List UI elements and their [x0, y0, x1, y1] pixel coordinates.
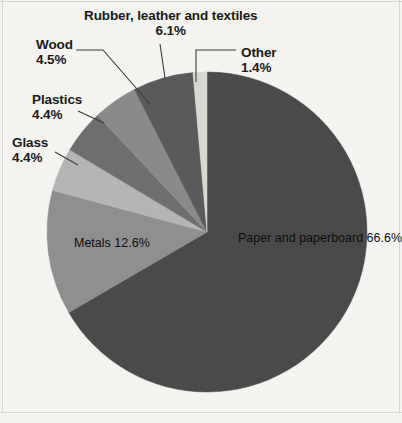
slice-label-plastics-value: 4.4%	[32, 107, 82, 122]
slice-label-metals-name: Metals	[74, 236, 111, 250]
slice-label-wood-value: 4.5%	[36, 52, 73, 67]
slice-label-glass-value: 4.4%	[12, 150, 48, 165]
slice-label-paper-value: 66.6%	[367, 231, 402, 245]
slice-label-plastics: Plastics 4.4%	[32, 92, 82, 122]
slice-label-paper-line1: Paper and	[238, 231, 296, 245]
slice-label-metals: Metals 12.6%	[74, 236, 150, 251]
slice-label-plastics-name: Plastics	[32, 92, 82, 107]
slice-label-wood: Wood 4.5%	[36, 37, 73, 67]
slice-label-rubber-name: Rubber, leather and textiles	[84, 8, 258, 23]
slice-label-other-name: Other	[241, 45, 277, 60]
slice-label-other-value: 1.4%	[241, 60, 277, 75]
slice-label-other: Other 1.4%	[241, 45, 277, 75]
leader-line-rubber	[160, 44, 165, 78]
slice-label-paper: Paper and paperboard 66.6%	[238, 231, 402, 246]
slice-label-paper-line2: paperboard	[299, 231, 363, 245]
pie-chart-figure: Rubber, leather and textiles 6.1% Wood 4…	[0, 0, 402, 423]
slice-label-metals-value: 12.6%	[114, 236, 149, 250]
slice-label-glass: Glass 4.4%	[12, 135, 48, 165]
slice-label-glass-name: Glass	[12, 135, 48, 150]
slice-label-rubber: Rubber, leather and textiles 6.1%	[84, 8, 258, 38]
slice-label-wood-name: Wood	[36, 37, 73, 52]
slice-label-rubber-value: 6.1%	[84, 23, 258, 38]
